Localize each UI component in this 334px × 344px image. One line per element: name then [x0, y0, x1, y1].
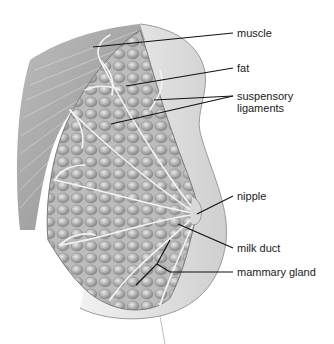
label-mammary-gland: mammary gland: [237, 266, 316, 278]
label-muscle: muscle: [237, 27, 272, 39]
label-suspensory-ligaments: suspensory ligaments: [237, 90, 293, 114]
breast-anatomy-illustration: [0, 0, 334, 344]
label-milk-duct: milk duct: [237, 242, 280, 254]
label-nipple: nipple: [237, 190, 266, 202]
label-fat: fat: [237, 62, 249, 74]
